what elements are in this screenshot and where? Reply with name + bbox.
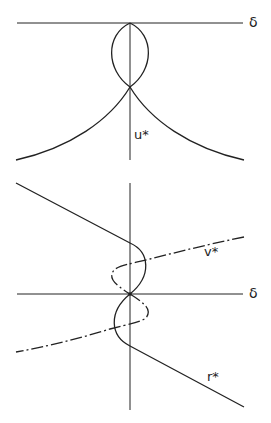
v-star-upper-curve <box>112 237 244 294</box>
bottom-delta-label: δ <box>249 286 258 300</box>
bifurcation-figure: δ u* δ v* r* <box>0 0 271 423</box>
diagram-canvas <box>0 0 271 423</box>
v-star-label: v* <box>204 245 218 258</box>
v-star-lower-curve <box>16 294 148 352</box>
top-right-branch <box>130 87 244 160</box>
u-star-label: u* <box>134 128 149 141</box>
top-delta-label: δ <box>249 15 258 29</box>
top-left-branch <box>16 87 130 160</box>
r-star-label: r* <box>207 370 219 383</box>
